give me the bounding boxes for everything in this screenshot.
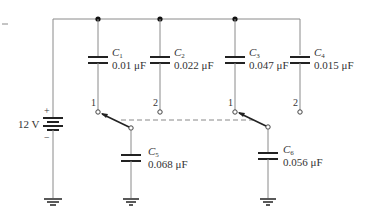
svg-text:0.022 μF: 0.022 μF [174, 59, 214, 71]
terminal-1-label: 1 [228, 97, 233, 108]
svg-text:+: + [44, 105, 50, 116]
switch-2 [238, 112, 270, 129]
svg-text:−: − [44, 132, 50, 143]
svg-text:C6: C6 [283, 143, 294, 157]
ground-icon [44, 199, 62, 205]
svg-text:C5: C5 [148, 145, 159, 159]
capacitor-c3: C3 0.047 μF 1 [225, 19, 289, 114]
svg-text:0.015 μF: 0.015 μF [314, 59, 354, 71]
svg-text:C4: C4 [314, 46, 325, 60]
svg-text:0.056 μF: 0.056 μF [283, 156, 323, 168]
circuit-diagram: C1 0.01 μF 1 C2 0.022 μF 2 C3 0.047 μF 1… [0, 0, 366, 213]
ground-icon [260, 199, 276, 205]
ground-icon [123, 199, 139, 205]
capacitor-c5: C5 0.068 μF [121, 130, 188, 198]
capacitor-c4: C4 0.015 μF 2 [290, 46, 354, 114]
capacitor-c6: C6 0.056 μF [258, 129, 323, 198]
svg-text:C2: C2 [174, 46, 185, 60]
svg-text:C3: C3 [249, 46, 260, 60]
terminal-1-label: 1 [91, 97, 96, 108]
svg-text:0.01 μF: 0.01 μF [112, 59, 146, 71]
terminal-2-label: 2 [153, 97, 158, 108]
svg-text:C1: C1 [112, 46, 123, 60]
svg-text:0.068 μF: 0.068 μF [148, 158, 188, 170]
switch-1 [101, 113, 133, 130]
battery-label: 12 V [18, 118, 40, 130]
capacitor-c2: C2 0.022 μF 2 [150, 19, 214, 114]
capacitor-c1: C1 0.01 μF 1 [88, 19, 146, 114]
svg-text:0.047 μF: 0.047 μF [249, 59, 289, 71]
terminal-2-label: 2 [293, 97, 298, 108]
battery-12v: + − 12 V [18, 105, 63, 198]
